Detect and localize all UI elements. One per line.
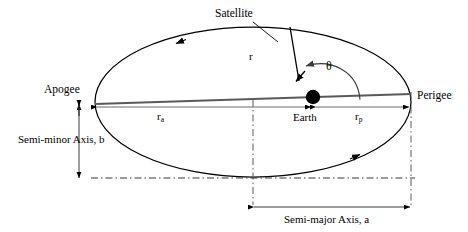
semi-minor-axis-label: Semi-minor Axis, b (18, 134, 104, 145)
perigee-radius-label: rp (355, 111, 362, 124)
earth-body (306, 90, 320, 104)
true-anomaly-label: θ (326, 60, 332, 72)
orbit-diagram-canvas (0, 0, 468, 232)
satellite-label: Satellite (215, 8, 253, 20)
apogee-radius-subscript: a (161, 115, 164, 124)
perigee-radius-subscript: p (359, 115, 363, 124)
orbit-direction-arrow-top (176, 40, 186, 44)
satellite-leader-line (253, 22, 278, 42)
earth-label: Earth (293, 112, 317, 123)
orbit-diagram: Satellite r θ Apogee Perigee Earth ra rp… (0, 0, 468, 232)
apogee-label: Apogee (44, 84, 80, 96)
apogee-radius-label: ra (157, 111, 164, 124)
perigee-label: Perigee (417, 90, 451, 102)
radius-vector-label: r (249, 51, 253, 62)
semi-major-axis-label: Semi-major Axis, a (284, 214, 369, 225)
radius-vector-line (290, 27, 299, 81)
